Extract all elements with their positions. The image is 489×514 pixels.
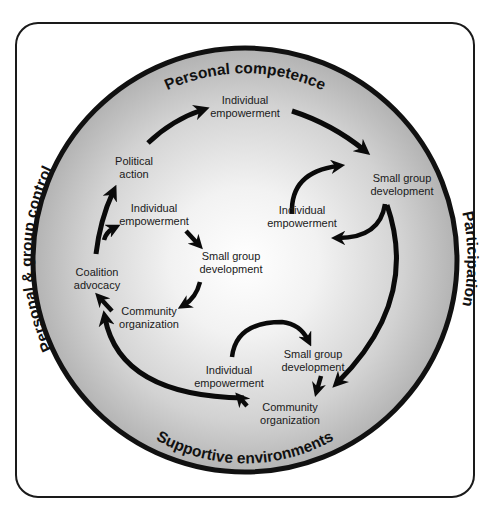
node-label-line1: Community [119, 305, 179, 318]
node-label-line2: development [200, 262, 263, 275]
node-bottom-individual-empowerment: Individual empowerment [194, 364, 264, 389]
node-outer-community-organization: Community organization [260, 401, 320, 426]
node-label-line2: development [371, 184, 434, 197]
node-label-line1: Individual [267, 204, 337, 217]
node-label-line2: action [115, 167, 153, 180]
node-label-line1: Small group [282, 348, 345, 361]
node-bottom-small-group-development: Small group development [282, 348, 345, 373]
node-label-line1: Political [115, 155, 153, 168]
node-label-line1: Small group [371, 172, 434, 185]
node-left-individual-empowerment: Individual empowerment [119, 202, 189, 227]
node-label-line2: empowerment [267, 216, 337, 229]
node-outer-individual-empowerment: Individual empowerment [210, 94, 280, 119]
node-label-line1: Small group [200, 250, 263, 263]
node-right-individual-empowerment: Individual empowerment [267, 204, 337, 229]
node-label-line1: Individual [210, 94, 280, 107]
node-label-line2: development [282, 360, 345, 373]
node-label-line2: empowerment [194, 376, 264, 389]
node-outer-coalition-advocacy: Coalition advocacy [74, 266, 120, 291]
empowerment-diagram: Personal competence Supportive environme… [0, 0, 489, 514]
node-left-community-organization: Community organization [119, 305, 179, 330]
node-label-line2: empowerment [119, 214, 189, 227]
node-label-line2: empowerment [210, 106, 280, 119]
node-label-line1: Individual [119, 202, 189, 215]
node-label-line1: Individual [194, 364, 264, 377]
node-label-line2: organization [260, 413, 320, 426]
node-label-line1: Community [260, 401, 320, 414]
node-label-line2: organization [119, 317, 179, 330]
node-label-line2: advocacy [74, 278, 120, 291]
node-outer-small-group-development: Small group development [371, 172, 434, 197]
node-left-small-group-development: Small group development [200, 250, 263, 275]
node-outer-political-action: Political action [115, 155, 153, 180]
node-label-line1: Coalition [74, 266, 120, 279]
